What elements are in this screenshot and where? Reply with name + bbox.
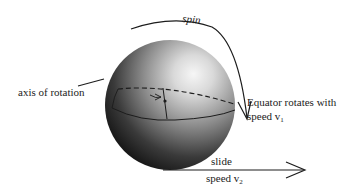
equator-rotates-label: Equator rotates with xyxy=(247,96,337,108)
sphere-diagram: spin axis of rotation Equator rotates wi… xyxy=(0,0,359,191)
slide-speed-label: speed v2 xyxy=(206,172,243,186)
slide-speed-subscript: 2 xyxy=(239,178,243,186)
axis-of-rotation-label: axis of rotation xyxy=(18,86,85,98)
sphere xyxy=(105,40,235,170)
spin-label: spin xyxy=(182,12,202,26)
equator-speed-prefix: speed v xyxy=(247,110,281,122)
slide-speed-prefix: speed v xyxy=(206,172,240,184)
sphere-body xyxy=(105,40,235,170)
axis-label-group: axis of rotation xyxy=(18,79,104,98)
slide-label: slide xyxy=(211,155,232,167)
equator-speed-subscript: 1 xyxy=(280,116,284,124)
equator-label-group: Equator rotates with speed v1 xyxy=(247,96,337,124)
equator-speed-label: speed v1 xyxy=(247,110,284,124)
axis-center-dot xyxy=(163,99,166,102)
axis-leader-line xyxy=(78,79,104,86)
